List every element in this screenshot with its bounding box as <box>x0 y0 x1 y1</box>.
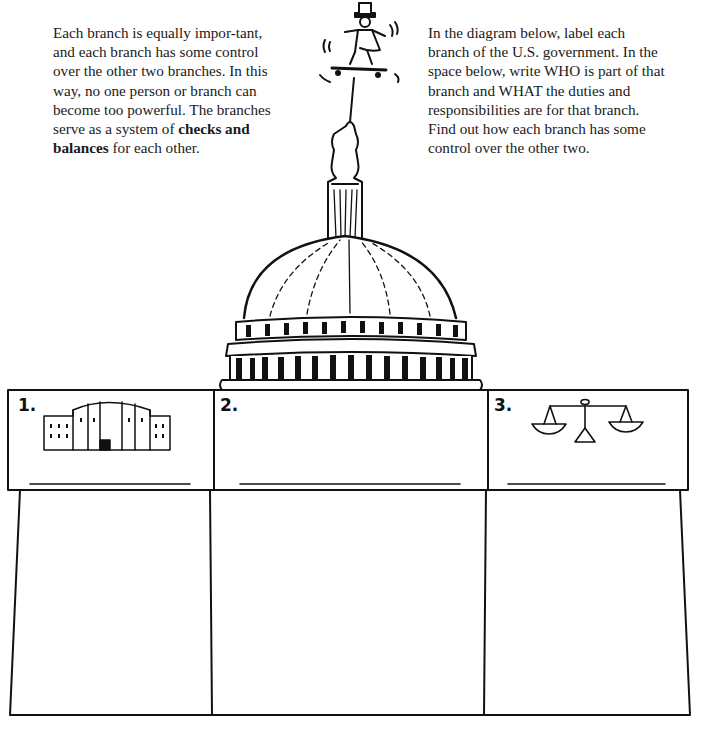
uncle-sam-skateboard-icon <box>320 3 399 82</box>
branch-number-3: 3. <box>494 395 512 415</box>
branch-2-label-field[interactable] <box>240 464 460 484</box>
branch-3-description-area[interactable] <box>492 495 678 710</box>
white-house-icon <box>44 402 170 450</box>
branch-3-label-field[interactable] <box>508 464 665 484</box>
branch-number-1: 1. <box>18 395 36 415</box>
branch-1-label-field[interactable] <box>30 464 190 484</box>
branch-number-2: 2. <box>220 395 238 415</box>
spire-icon <box>328 78 362 240</box>
scales-of-justice-icon <box>532 400 643 443</box>
branch-1-description-area[interactable] <box>20 495 205 710</box>
branch-2-description-area[interactable] <box>216 495 480 710</box>
capitol-dome-icon <box>220 236 482 390</box>
